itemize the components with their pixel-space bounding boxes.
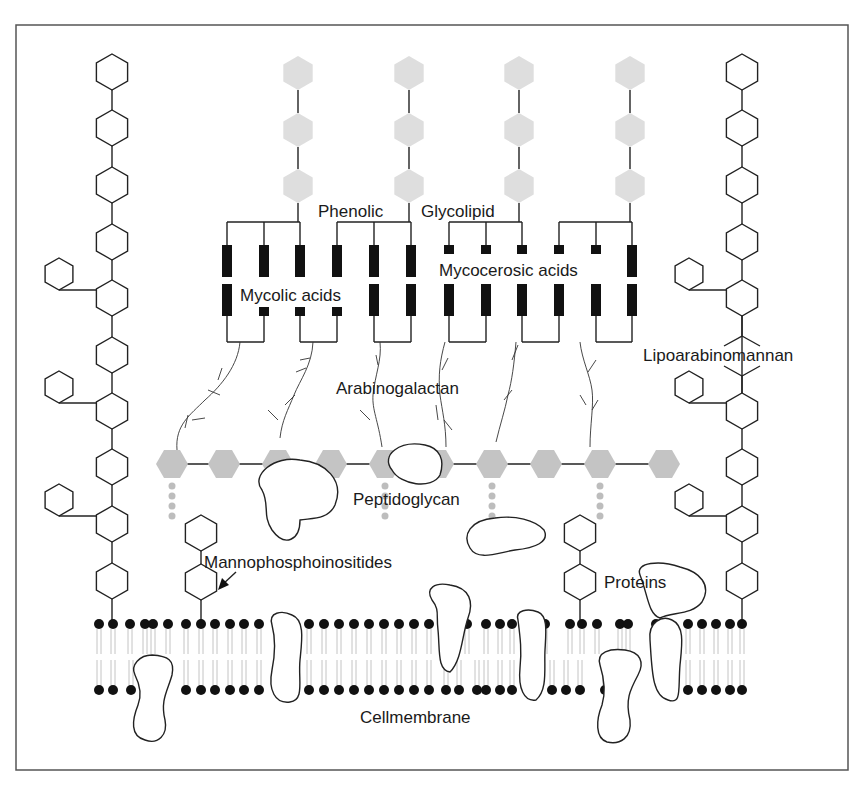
lipid-head	[561, 685, 571, 695]
lipid-head	[210, 619, 220, 629]
lipid-head	[108, 685, 118, 695]
lipid-head	[507, 619, 517, 629]
peptide-dot	[597, 493, 604, 500]
lipid-block	[406, 245, 416, 277]
branch-sugar-hexagon	[675, 258, 703, 290]
lipid-head	[148, 619, 158, 629]
lipid-head	[319, 619, 329, 629]
lipid-head	[577, 619, 587, 629]
lipid-head	[424, 685, 434, 695]
lipid-block	[627, 245, 637, 277]
lipid-block	[444, 245, 454, 254]
lipid-block	[295, 307, 305, 316]
lipid-head	[725, 619, 735, 629]
peptide-dot	[169, 493, 176, 500]
lipid-head	[364, 619, 374, 629]
branch-sugar-hexagon	[675, 484, 703, 516]
branch-sugar-hexagon	[45, 371, 73, 403]
lipid-head	[409, 685, 419, 695]
lipid-head	[349, 619, 359, 629]
lipid-block	[332, 307, 342, 316]
lipid-head	[125, 619, 135, 629]
branch-sugar-hexagon	[45, 258, 73, 290]
lipid-head	[575, 685, 585, 695]
lipid-block	[369, 245, 379, 277]
lipid-head	[225, 685, 235, 695]
lipid-head	[196, 685, 206, 695]
lipid-head	[319, 685, 329, 695]
lipid-block	[295, 245, 305, 277]
lipid-head	[472, 685, 482, 695]
lipid-head	[711, 685, 721, 695]
lipid-block	[627, 284, 637, 316]
lipid-head	[334, 685, 344, 695]
lipid-block	[554, 245, 564, 254]
lipid-head	[126, 685, 136, 695]
lipid-head	[94, 619, 104, 629]
lipid-head	[239, 685, 249, 695]
lipid-head	[495, 619, 505, 629]
lipid-head	[481, 619, 491, 629]
lipid-head	[409, 619, 419, 629]
label-peptidoglycan: Peptidoglycan	[353, 490, 460, 509]
label-glycolipid: Glycolipid	[421, 202, 495, 221]
lipid-head	[181, 619, 191, 629]
lipid-head	[683, 619, 693, 629]
peptide-dot	[382, 483, 389, 490]
lipid-head	[683, 685, 693, 695]
branch-sugar-hexagon	[675, 371, 703, 403]
lipid-head	[547, 685, 557, 695]
lipid-head	[737, 619, 747, 629]
lipid-head	[623, 619, 633, 629]
lipid-head	[225, 619, 235, 629]
lipid-head	[254, 685, 264, 695]
lipid-head	[394, 619, 404, 629]
protein-blob	[271, 612, 302, 702]
lipid-head	[737, 685, 747, 695]
peptide-dot	[489, 483, 496, 490]
lipid-head	[239, 619, 249, 629]
peptide-dot	[382, 513, 389, 520]
label-mycolic-acids: Mycolic acids	[240, 286, 341, 305]
label-arabinogalactan: Arabinogalactan	[336, 379, 459, 398]
lipid-block	[332, 245, 342, 277]
lipid-head	[697, 619, 707, 629]
cell-wall-diagram: Phenolic Glycolipid Mycolic acids Mycoce…	[0, 0, 863, 791]
label-mycocerosic-acids: Mycocerosic acids	[439, 261, 578, 280]
label-proteins: Proteins	[604, 573, 666, 592]
lipid-block	[369, 284, 379, 316]
protein-blob	[518, 610, 546, 700]
label-cell-membrane: Cellmembrane	[360, 708, 471, 727]
peptide-dot	[169, 503, 176, 510]
lipid-block	[406, 284, 416, 316]
label-lipoarabinomannan: Lipoarabinomannan	[643, 346, 793, 365]
lipid-head	[304, 685, 314, 695]
lipid-head	[349, 685, 359, 695]
lipid-head	[711, 619, 721, 629]
lipid-head	[181, 685, 191, 695]
label-phenolic: Phenolic	[318, 202, 384, 221]
lipid-block	[481, 284, 491, 316]
peptide-dot	[489, 503, 496, 510]
lipid-head	[481, 685, 491, 695]
peptide-dot	[169, 513, 176, 520]
lipid-block	[444, 284, 454, 316]
lipid-head	[697, 685, 707, 695]
peptide-dot	[489, 493, 496, 500]
lipid-head	[424, 619, 434, 629]
lipid-block	[222, 284, 232, 316]
lipid-head	[334, 619, 344, 629]
lipid-head	[163, 619, 173, 629]
lipid-block	[259, 245, 269, 277]
lipid-head	[592, 619, 602, 629]
peptide-dot	[597, 483, 604, 490]
lipid-head	[254, 619, 264, 629]
lipid-head	[565, 619, 575, 629]
lipid-block	[591, 245, 601, 254]
lipid-head	[441, 685, 451, 695]
lipid-head	[725, 685, 735, 695]
lipid-block	[222, 245, 232, 277]
lipid-block	[517, 284, 527, 316]
lipid-head	[379, 685, 389, 695]
peptide-dot	[597, 513, 604, 520]
